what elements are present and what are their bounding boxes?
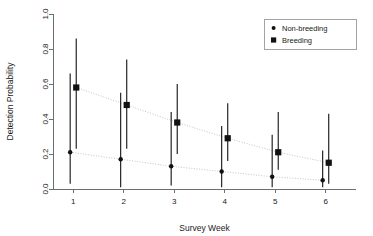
chart-legend: Non-breedingBreeding — [264, 19, 356, 49]
data-point-breeding-week-1 — [73, 84, 79, 90]
data-point-breeding-week-2 — [124, 102, 130, 108]
y-axis-title: Detection Probability — [5, 62, 15, 141]
y-tick-label: 0.0 — [41, 183, 50, 195]
data-point-breeding-week-4 — [225, 135, 231, 141]
y-tick-label: 1.0 — [41, 8, 50, 20]
data-point-non-breeding-week-4 — [219, 169, 223, 173]
legend-label-breeding: Breeding — [282, 36, 312, 45]
y-tick-label: 0.2 — [41, 148, 50, 160]
data-point-breeding-week-6 — [326, 160, 332, 166]
x-axis-title: Survey Week — [179, 223, 230, 233]
trend-line-non-breeding — [70, 152, 323, 180]
y-tick-label: 0.6 — [41, 78, 50, 90]
data-point-non-breeding-week-6 — [320, 178, 324, 182]
data-point-non-breeding-week-3 — [169, 164, 173, 168]
x-tick-label: 4 — [222, 197, 227, 206]
data-series — [68, 39, 332, 188]
data-point-breeding-week-5 — [275, 149, 281, 155]
data-point-breeding-week-3 — [174, 119, 180, 125]
legend-marker-breeding — [271, 37, 276, 42]
y-tick-label: 0.4 — [41, 113, 50, 125]
detection-probability-plot: 0.00.20.40.60.81.0123456Survey WeekDetec… — [0, 0, 373, 236]
legend-label-non-breeding: Non-breeding — [282, 24, 327, 33]
chart-figure: 0.00.20.40.60.81.0123456Survey WeekDetec… — [0, 0, 373, 236]
x-tick-label: 3 — [172, 197, 177, 206]
trend-line-breeding — [76, 88, 329, 163]
data-point-non-breeding-week-1 — [68, 150, 72, 154]
trend-lines — [70, 88, 329, 181]
x-tick-label: 6 — [323, 197, 328, 206]
data-point-non-breeding-week-2 — [118, 157, 122, 161]
data-point-non-breeding-week-5 — [270, 175, 274, 179]
x-tick-label: 5 — [273, 197, 278, 206]
y-tick-label: 0.8 — [41, 43, 50, 55]
legend-marker-non-breeding — [272, 26, 276, 30]
x-tick-label: 1 — [71, 197, 76, 206]
x-tick-label: 2 — [121, 197, 126, 206]
